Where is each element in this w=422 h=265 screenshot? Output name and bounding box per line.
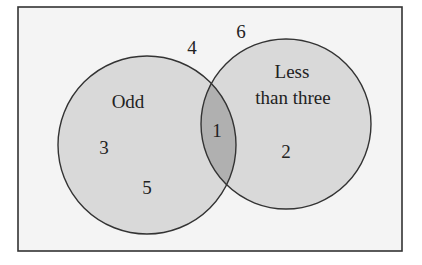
less-than-three-label-line2: than three: [255, 87, 330, 108]
element-outside-6: 6: [236, 21, 246, 42]
venn-diagram: Odd Less than three 4 6 3 5 1 2: [0, 0, 422, 265]
element-less-than-three-2: 2: [281, 141, 291, 162]
odd-set-label: Odd: [112, 91, 145, 112]
element-intersection-1: 1: [212, 120, 222, 141]
less-than-three-label-line1: Less: [275, 61, 310, 82]
element-outside-4: 4: [187, 37, 197, 58]
element-odd-3: 3: [99, 137, 109, 158]
element-odd-5: 5: [142, 177, 152, 198]
